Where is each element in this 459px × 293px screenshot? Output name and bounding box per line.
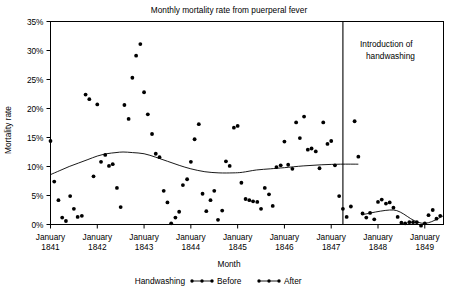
data-point [76, 215, 80, 219]
data-point [431, 208, 435, 212]
data-point [353, 119, 357, 123]
data-point [204, 209, 208, 213]
data-point [294, 121, 298, 125]
legend-entry-after: After [257, 276, 301, 286]
x-tick-label-month: January [316, 232, 346, 242]
data-point [337, 194, 341, 198]
y-tick-label: 30% [27, 46, 44, 56]
x-tick-label-month: January [410, 232, 440, 242]
data-point [95, 103, 99, 107]
x-tick-label-month: January [363, 232, 393, 242]
legend-marker-before-mid [200, 279, 203, 282]
data-point [415, 220, 419, 224]
data-point [166, 201, 170, 205]
data-point [411, 220, 415, 224]
data-point [310, 147, 314, 151]
data-point [372, 217, 376, 221]
data-point [232, 126, 236, 130]
data-point [302, 115, 306, 119]
data-point [52, 180, 56, 184]
y-tick-label: 15% [27, 133, 44, 143]
data-point [247, 198, 251, 202]
data-point [87, 97, 91, 101]
data-point [185, 177, 189, 181]
data-point [220, 209, 224, 213]
data-point [150, 132, 154, 136]
x-tick-label-month: January [83, 232, 113, 242]
data-point [80, 214, 84, 218]
data-point [396, 215, 400, 219]
data-point [142, 90, 146, 94]
data-point [119, 205, 123, 209]
data-point [103, 153, 107, 157]
data-point [99, 160, 103, 164]
data-point [407, 220, 411, 224]
data-point [368, 211, 372, 215]
data-point [209, 198, 213, 202]
data-point [134, 54, 138, 58]
data-point [224, 159, 228, 163]
data-point [283, 140, 287, 144]
data-point [228, 164, 232, 168]
x-tick-label-month: January [176, 232, 206, 242]
data-point [193, 137, 197, 141]
data-point [169, 221, 173, 225]
data-point [427, 213, 431, 217]
data-point [130, 76, 134, 80]
data-point [251, 199, 255, 203]
data-point [326, 142, 330, 146]
data-point [341, 207, 345, 211]
data-point [345, 215, 349, 219]
data-point [127, 117, 131, 121]
x-tick-label-year: 1848 [369, 242, 388, 252]
data-point [181, 183, 185, 187]
x-axis-label: Month [217, 259, 240, 269]
data-point [419, 224, 423, 228]
legend-marker-before-right [210, 279, 213, 282]
legend-label-before: Before [217, 276, 242, 286]
x-axis-ticks: January1841January1842January1843January… [36, 225, 441, 252]
legend-title: Handwashing [135, 276, 186, 286]
x-tick-label-month: January [36, 232, 66, 242]
data-point [84, 93, 88, 97]
data-point [212, 189, 216, 193]
chart-figure: Monthly mortality rate from puerperal fe… [0, 0, 459, 293]
y-tick-label: 5% [32, 191, 45, 201]
data-point [333, 163, 337, 167]
x-tick-label-month: January [270, 232, 300, 242]
data-point [321, 121, 325, 125]
data-point [60, 216, 64, 220]
data-point [216, 218, 220, 222]
data-point [438, 214, 442, 218]
y-axis-label: Mortality rate [3, 106, 13, 154]
data-point [349, 205, 353, 209]
data-point [92, 174, 96, 178]
data-point [329, 139, 333, 143]
data-point [356, 155, 360, 159]
x-tick-label-year: 1846 [275, 242, 294, 252]
data-point [403, 221, 407, 225]
data-point [201, 192, 205, 196]
data-points-before [49, 42, 361, 225]
data-point [115, 186, 119, 190]
data-point [154, 152, 158, 156]
y-tick-label: 20% [27, 104, 44, 114]
data-point [376, 200, 380, 204]
data-point [177, 210, 181, 214]
trend-line-after [363, 210, 444, 223]
x-tick-label-year: 1841 [41, 242, 60, 252]
x-tick-label-month: January [129, 232, 159, 242]
legend-marker-after-left [257, 279, 260, 282]
data-point [68, 194, 72, 198]
data-point [263, 186, 267, 190]
data-point [158, 155, 162, 159]
data-point [290, 167, 294, 171]
data-point [279, 163, 283, 167]
data-point [435, 217, 439, 221]
data-point [239, 181, 243, 185]
data-point [123, 103, 127, 107]
chart-legend: Handwashing Before After [135, 276, 302, 286]
data-point [162, 189, 166, 193]
data-point [384, 202, 388, 206]
data-point [275, 165, 279, 169]
